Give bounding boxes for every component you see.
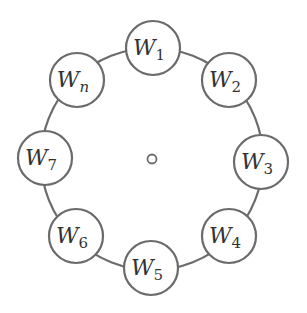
node-w6: W6 — [49, 209, 103, 263]
ring-diagram: W1W2W3W4W5W6W7Wn — [0, 0, 307, 313]
node-w3: W3 — [234, 135, 288, 189]
center-point — [148, 155, 157, 164]
node-w2: W2 — [202, 53, 256, 107]
node-w4: W4 — [202, 209, 256, 263]
node-w1: W1 — [126, 21, 180, 75]
node-w7: W7 — [18, 131, 72, 185]
node-w5: W5 — [124, 241, 178, 295]
node-wn: Wn — [50, 53, 104, 107]
